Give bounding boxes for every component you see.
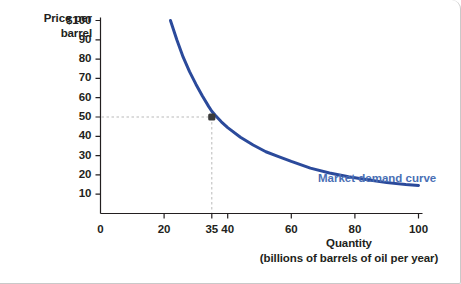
y-axis-tick-label: 10 — [58, 187, 92, 199]
x-axis-tick-label: 40 — [213, 223, 243, 235]
market-demand-curve-label: Market demand curve — [318, 172, 436, 184]
y-axis-tick-label: $100 — [52, 14, 92, 26]
equilibrium-point-marker — [208, 113, 215, 120]
x-axis-tick-label: 60 — [276, 223, 306, 235]
y-axis-tick-label: 30 — [58, 149, 92, 161]
chart-figure: Price per barrel Quantity (billions of b… — [0, 0, 461, 284]
y-axis-tick-label: 80 — [58, 52, 92, 64]
x-axis-tick-label: 100 — [404, 223, 434, 235]
y-axis-tick-label: 40 — [58, 129, 92, 141]
x-axis-tick-label: 0 — [86, 223, 116, 235]
y-axis-tick-label: 50 — [58, 110, 92, 122]
y-axis-tick-label: 60 — [58, 91, 92, 103]
y-axis-tick-label: 20 — [58, 168, 92, 180]
x-axis-tick-label: 80 — [340, 223, 370, 235]
demand-curve — [170, 21, 418, 186]
y-axis-tick-label: 90 — [58, 33, 92, 45]
x-axis-tick-label: 20 — [149, 223, 179, 235]
y-axis-tick-label: 70 — [58, 71, 92, 83]
